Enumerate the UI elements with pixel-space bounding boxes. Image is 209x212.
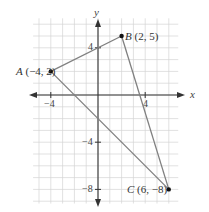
point-c xyxy=(167,187,171,191)
grid xyxy=(33,18,178,203)
point-b xyxy=(119,34,123,38)
coordinate-plane: x y −4 4 4 −4 −8 A (−4, 2) B (2, 5) C (6… xyxy=(0,0,209,212)
y-axis-label: y xyxy=(93,6,99,18)
point-c-label: C (6, −8) xyxy=(127,183,167,196)
y-tick-label-neg4: −4 xyxy=(82,136,93,147)
y-tick-label-neg8: −8 xyxy=(82,183,93,194)
point-a-label: A (−4, 2) xyxy=(15,65,56,78)
y-axis-up-arrow-icon xyxy=(95,19,101,27)
x-axis-label: x xyxy=(189,88,195,100)
y-axis-down-arrow-icon xyxy=(95,199,101,207)
x-axis-left-arrow-icon xyxy=(29,92,37,98)
point-b-label: B (2, 5) xyxy=(125,30,159,43)
x-tick-label-neg4: −4 xyxy=(44,98,55,109)
x-axis-right-arrow-icon xyxy=(177,92,185,98)
